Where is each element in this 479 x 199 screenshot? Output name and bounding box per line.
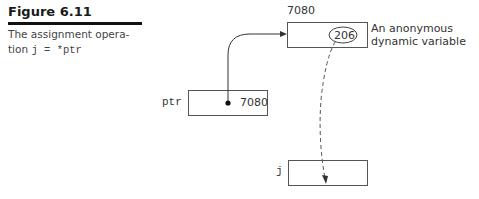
assignment-arrowhead-icon <box>322 175 328 184</box>
diagram-arrows <box>0 0 479 199</box>
value-ellipse <box>329 27 357 43</box>
pointer-arrowhead-icon <box>280 31 287 37</box>
pointer-dot-icon <box>225 100 230 105</box>
